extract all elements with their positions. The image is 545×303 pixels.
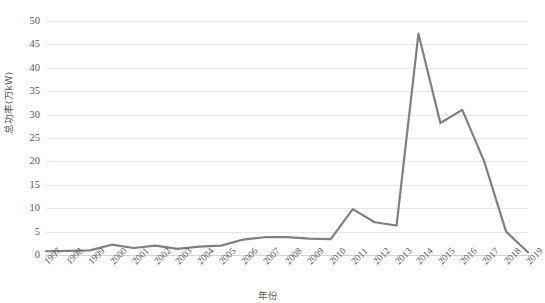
x-axis-title: 年份 (0, 288, 535, 302)
line-series-total-power (46, 34, 528, 253)
